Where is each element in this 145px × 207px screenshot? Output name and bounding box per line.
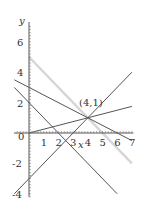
x-tick-label: 3 bbox=[70, 137, 76, 148]
x-tick-label: 4 bbox=[85, 137, 91, 148]
x-tick-label: 5 bbox=[100, 137, 106, 148]
origin-label: 0 bbox=[18, 131, 24, 142]
line-chart: 1234567-4-2246 y x 0 (4,1) bbox=[0, 0, 145, 207]
y-tick-label: -4 bbox=[12, 189, 22, 200]
chart-lines bbox=[14, 57, 132, 194]
point-annotation: (4,1) bbox=[79, 97, 103, 108]
y-axis-label: y bbox=[18, 15, 25, 26]
chart-canvas: 1234567-4-2246 y x 0 (4,1) bbox=[0, 0, 145, 207]
chart-axes bbox=[14, 22, 133, 197]
x-axis-label: x bbox=[78, 139, 84, 150]
x-tick-label: 7 bbox=[129, 137, 135, 148]
y-tick-label: 2 bbox=[17, 98, 23, 109]
y-tick-label: 6 bbox=[17, 37, 23, 48]
x-tick-label: 6 bbox=[114, 137, 120, 148]
y-tick-label: 4 bbox=[17, 67, 23, 78]
x-tick-label: 2 bbox=[55, 137, 61, 148]
y-tick-label: -2 bbox=[12, 158, 22, 169]
x-tick-label: 1 bbox=[41, 137, 47, 148]
